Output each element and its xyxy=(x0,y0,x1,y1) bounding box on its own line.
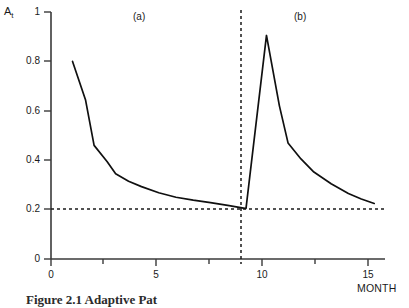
data-curve xyxy=(73,35,375,208)
panel-label-b: (b) xyxy=(294,12,306,22)
y-tick-label-0_8: 0.8 xyxy=(8,56,40,66)
y-tick-label-0_4: 0.4 xyxy=(8,155,40,165)
x-tick-label-0: 0 xyxy=(37,270,65,280)
x-tick-label-10: 10 xyxy=(248,270,276,280)
y-tick-label-0_6: 0.6 xyxy=(8,106,40,116)
y-tick-marks xyxy=(44,12,51,259)
panel-label-a: (a) xyxy=(133,12,145,22)
y-tick-label-0_2: 0.2 xyxy=(8,204,40,214)
x-tick-label-15: 15 xyxy=(354,270,382,280)
x-axis-title: MONTH xyxy=(357,283,397,294)
y-tick-label-0: 0 xyxy=(8,254,40,264)
x-tick-label-5: 5 xyxy=(142,270,170,280)
x-tick-marks xyxy=(51,259,368,266)
figure-caption: Figure 2.1 Adaptive Pat xyxy=(26,292,157,308)
y-tick-label-1: 1 xyxy=(8,7,40,17)
